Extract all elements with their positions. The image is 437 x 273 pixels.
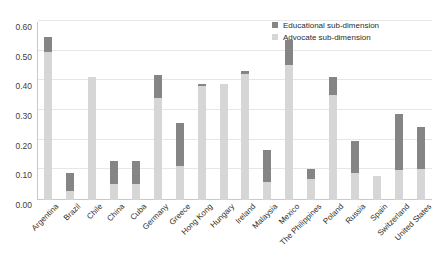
x-axis-tick-label: Argentina: [30, 202, 61, 233]
bar-segment-educational: [132, 161, 140, 183]
bar-column: [373, 176, 381, 200]
bar-column: [241, 71, 249, 200]
bar-segment-advocate: [176, 166, 184, 200]
legend-swatch-advocate-icon: [272, 34, 278, 40]
bar-segment-educational: [44, 37, 52, 52]
bar-segment-advocate: [66, 191, 74, 200]
bar-segment-advocate: [351, 173, 359, 200]
bar-segment-advocate: [241, 74, 249, 200]
bar-segment-educational: [351, 141, 359, 174]
bar-column: [329, 77, 337, 200]
bar-segment-advocate: [154, 98, 162, 200]
chart-legend: Educational sub-dimension Advocate sub-d…: [272, 20, 379, 44]
bar-segment-advocate: [373, 176, 381, 200]
bar-column: [263, 150, 271, 200]
legend-label-advocate: Advocate sub-dimension: [283, 33, 371, 42]
bar-column: [220, 84, 228, 200]
bar-segment-educational: [395, 114, 403, 170]
x-axis-tick-label: Poland: [322, 202, 346, 226]
bar-column: [132, 161, 140, 200]
bar-column: [110, 161, 118, 200]
x-axis-tick-label: China: [105, 202, 126, 223]
bar-column: [198, 84, 206, 200]
legend-swatch-educational-icon: [272, 22, 278, 28]
bar-column: [88, 77, 96, 200]
bar-segment-educational: [307, 169, 315, 179]
bar-column: [176, 123, 184, 200]
bar-column: [66, 173, 74, 200]
bar-segment-advocate: [395, 170, 403, 200]
bar-segment-educational: [329, 77, 337, 95]
bar-segment-educational: [110, 161, 118, 183]
bar-series-container: [37, 22, 432, 200]
y-axis-labels: 0.000.100.200.300.400.500.60: [0, 22, 37, 200]
bar-column: [395, 114, 403, 200]
bar-column: [307, 169, 315, 200]
bar-segment-advocate: [417, 169, 425, 200]
bar-column: [154, 75, 162, 200]
x-axis-tick-label: The Philippines: [279, 202, 324, 247]
bar-chart: 0.000.100.200.300.400.500.60 ArgentinaBr…: [0, 0, 437, 273]
bar-segment-advocate: [110, 184, 118, 200]
bar-segment-advocate: [132, 184, 140, 200]
bar-segment-advocate: [88, 77, 96, 200]
legend-item-advocate: Advocate sub-dimension: [272, 32, 379, 42]
bar-segment-advocate: [198, 86, 206, 200]
bar-segment-educational: [66, 173, 74, 191]
x-axis-labels: ArgentinaBrazilChileChinaCubaGermanyGree…: [37, 202, 432, 273]
bar-segment-advocate: [329, 95, 337, 200]
bar-column: [417, 127, 425, 200]
bar-segment-educational: [198, 84, 206, 85]
legend-label-educational: Educational sub-dimension: [283, 21, 379, 30]
bar-column: [285, 40, 293, 200]
bar-segment-advocate: [44, 52, 52, 200]
bar-column: [44, 37, 52, 200]
x-axis-tick-label: Brazil: [62, 202, 83, 223]
x-axis-tick-label: Chile: [85, 202, 104, 221]
bar-segment-educational: [241, 71, 249, 74]
bar-segment-educational: [417, 127, 425, 169]
bar-segment-advocate: [285, 65, 293, 200]
bar-segment-educational: [176, 123, 184, 166]
bar-segment-educational: [263, 150, 271, 183]
bar-segment-advocate: [220, 84, 228, 200]
bar-segment-educational: [154, 75, 162, 97]
bar-segment-advocate: [307, 179, 315, 200]
bar-column: [351, 141, 359, 200]
legend-item-educational: Educational sub-dimension: [272, 20, 379, 30]
bar-segment-advocate: [263, 182, 271, 200]
x-axis-tick-label: Russia: [344, 202, 368, 226]
